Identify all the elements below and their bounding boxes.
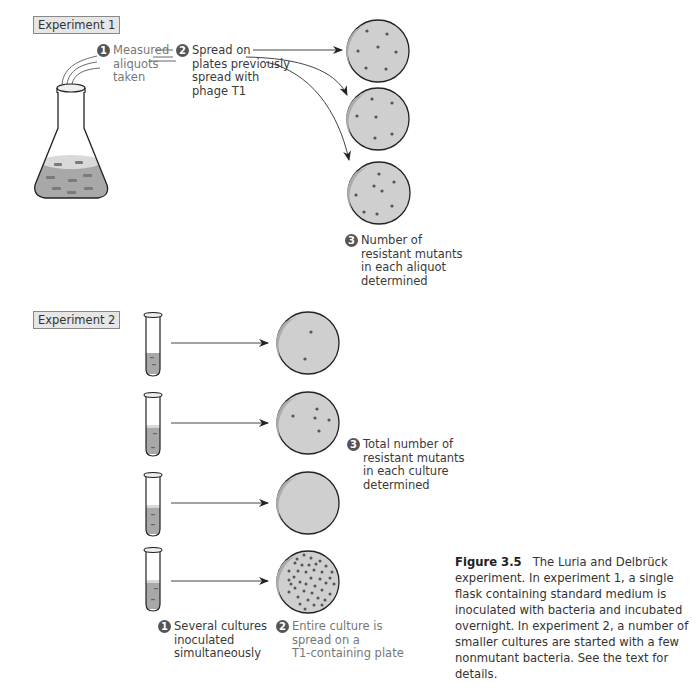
test-tube-4 (144, 548, 162, 612)
experiment-2-label: Experiment 2 (33, 311, 120, 329)
test-tube-2 (144, 393, 162, 457)
exp1-step1-label: 1Measured aliquots taken (97, 44, 169, 85)
exp2-plate-3 (276, 472, 339, 534)
figure-number: Figure 3.5 (455, 555, 522, 569)
exp1-step3-label: 3Number of resistant mutants in each ali… (345, 234, 463, 288)
exp1-plate-3 (347, 162, 410, 224)
step-3-badge: 3 (347, 438, 360, 451)
exp2-step3-label: 3Total number of resistant mutants in ea… (347, 438, 465, 492)
experiment-1-label: Experiment 1 (33, 16, 120, 34)
test-tube-3 (144, 473, 162, 537)
exp1-step2-label: 2Spread on plates previously spread with… (176, 44, 290, 98)
step-1-badge: 1 (97, 44, 110, 57)
exp1-plate-2 (346, 88, 409, 150)
exp2-plate-4 (276, 551, 339, 613)
test-tube-1 (144, 313, 162, 377)
step-3-badge: 3 (345, 234, 358, 247)
exp1-plate-1 (346, 20, 409, 82)
exp2-plate-2 (276, 392, 339, 454)
flask-icon (30, 84, 120, 205)
step-1-badge: 1 (158, 620, 171, 633)
step-2-badge: 2 (176, 44, 189, 57)
aliquot-lines (62, 56, 100, 84)
figure-caption: Figure 3.5 The Luria and Delbrück experi… (455, 554, 695, 682)
exp2-step2-label: 2Entire culture is spread on a T1-contai… (276, 620, 404, 661)
exp2-arrows (171, 343, 268, 581)
exp2-plate-1 (276, 312, 339, 374)
step-2-badge: 2 (276, 620, 289, 633)
caption-text: The Luria and Delbrück experiment. In ex… (455, 555, 688, 681)
exp2-step1-label: 1Several cultures inoculated simultaneou… (158, 620, 267, 661)
